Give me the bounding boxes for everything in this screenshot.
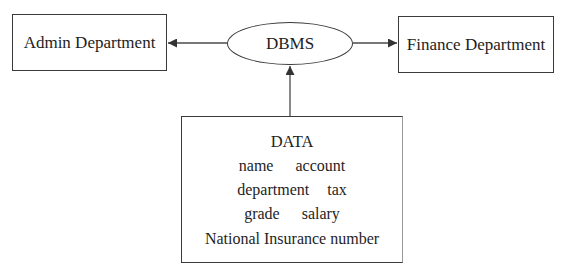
data-field-name: name xyxy=(239,157,274,174)
data-title: DATA xyxy=(182,132,402,152)
data-row: departmenttax xyxy=(182,181,402,199)
data-node: DATA nameaccount departmenttax gradesala… xyxy=(181,116,403,263)
data-field-account: account xyxy=(295,157,345,174)
data-title-label: DATA xyxy=(271,132,314,151)
data-row: nameaccount xyxy=(182,157,402,175)
data-field-grade: grade xyxy=(244,205,280,222)
data-field-national-insurance-number: National Insurance number xyxy=(205,230,379,247)
data-field-department: department xyxy=(237,181,309,198)
admin-department-node: Admin Department xyxy=(12,14,167,71)
data-field-tax: tax xyxy=(327,181,347,198)
data-field-salary: salary xyxy=(302,205,340,222)
dbms-diagram: ...pp... Admin Department DBMS Finance D… xyxy=(0,0,566,277)
dbms-label: DBMS xyxy=(266,34,314,54)
data-row: gradesalary xyxy=(182,205,402,223)
finance-department-label: Finance Department xyxy=(407,35,545,55)
data-row: National Insurance number xyxy=(182,230,402,248)
dbms-node: DBMS xyxy=(227,22,353,65)
finance-department-node: Finance Department xyxy=(398,16,554,73)
admin-department-label: Admin Department xyxy=(24,33,156,53)
